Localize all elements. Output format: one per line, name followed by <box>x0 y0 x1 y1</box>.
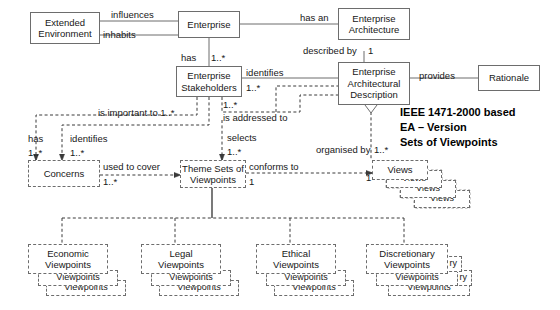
node-ethical-viewpoints[interactable]: Ethical Viewpoints <box>256 244 336 274</box>
node-views[interactable]: Views <box>372 160 428 180</box>
node-legal-viewpoints[interactable]: Legal Viewpoints <box>141 244 221 274</box>
node-label: ry <box>450 258 458 270</box>
mult-used-to-cover: 1..* <box>103 176 117 187</box>
node-label: ry <box>460 272 468 284</box>
node-label: Architectural <box>348 78 401 90</box>
mult-is-addressed-to: 1..* <box>223 99 237 110</box>
mult-identifies: 1..* <box>246 82 260 93</box>
mult-concerns-identifies: 1..* <box>70 147 84 158</box>
node-enterprise[interactable]: Enterprise <box>178 11 240 38</box>
edge-label-identifies: identifies <box>246 67 284 78</box>
node-label: Views <box>387 164 412 176</box>
node-label: Description <box>350 89 398 101</box>
edge-label-has: has <box>181 52 196 63</box>
node-enterprise-stakeholders[interactable]: Enterprise Stakeholders <box>176 66 242 97</box>
node-label: Concerns <box>44 168 85 180</box>
node-label: Viewpoints <box>273 259 319 271</box>
mult-conforms-to: 1 <box>249 176 254 187</box>
node-label: Enterprise <box>352 66 395 78</box>
node-label: Discretionary <box>379 248 434 260</box>
note-ieee-line2: EA – Version <box>400 120 467 135</box>
mult-concerns-has: 1..* <box>28 147 42 158</box>
mult-selects: 1..* <box>227 146 241 157</box>
edge-label-provides: provides <box>419 70 455 81</box>
edge-label-has-an: has an <box>300 12 329 23</box>
node-label: Enterprise <box>187 70 230 82</box>
note-ieee-line1: IEEE 1471-2000 based <box>400 105 516 120</box>
node-economic-viewpoints[interactable]: Economic Viewpoints <box>28 244 108 274</box>
edge-label-conforms-to: conforms to <box>249 161 299 172</box>
edge-is-addressed-to-a <box>222 95 352 112</box>
node-label: Economic <box>47 248 89 260</box>
node-concerns[interactable]: Concerns <box>28 160 100 187</box>
viewpoint-distribution-bus <box>62 218 404 244</box>
mult-described-by: 1 <box>368 45 373 56</box>
edge-label-organised-by: organised by <box>316 144 370 155</box>
mult-views: 1 <box>366 172 371 183</box>
node-label: Ethical <box>282 248 311 260</box>
node-extended-environment[interactable]: Extended Environment <box>30 12 100 44</box>
node-enterprise-architectural-description[interactable]: Enterprise Architectural Description <box>338 62 410 105</box>
edge-label-described-by: described by <box>303 45 357 56</box>
node-label: Viewpoints <box>158 259 204 271</box>
edge-label-inhabits: inhabits <box>103 29 136 40</box>
mult-has: 1..* <box>211 52 225 63</box>
edge-label-is-addressed-to: is addressed to <box>223 112 287 123</box>
edge-label-selects: selects <box>227 132 257 143</box>
node-theme-sets-of-viewpoints[interactable]: Theme Sets of Viewpoints <box>180 160 246 188</box>
node-label: Extended <box>45 17 85 29</box>
edge-label-used-to-cover: used to cover <box>103 161 160 172</box>
node-label: Viewpoints <box>190 174 236 186</box>
node-label: Viewpoints <box>45 259 91 271</box>
edge-label-concerns-has: has <box>28 133 43 144</box>
node-label: Theme Sets of <box>182 163 244 175</box>
node-label: Architecture <box>349 24 400 36</box>
mult-organised-by: 1..* <box>374 144 388 155</box>
node-rationale[interactable]: Rationale <box>478 65 540 91</box>
node-enterprise-architecture[interactable]: Enterprise Architecture <box>338 8 410 40</box>
node-label: Enterprise <box>352 13 395 25</box>
node-label: Rationale <box>489 72 529 84</box>
node-label: Enterprise <box>187 19 230 31</box>
node-label: Legal <box>169 248 192 260</box>
node-discretionary-viewpoints[interactable]: Discretionary Viewpoints <box>366 244 448 274</box>
node-label: Environment <box>38 28 91 40</box>
edge-label-is-important-to: is important to 1..* <box>98 107 175 118</box>
edge-label-influences: influences <box>111 9 154 20</box>
node-label: Viewpoints <box>384 259 430 271</box>
edge-label-concerns-identifies: identifies <box>70 133 108 144</box>
note-ieee-line3: Sets of Viewpoints <box>400 135 498 150</box>
node-label: Stakeholders <box>181 82 236 94</box>
